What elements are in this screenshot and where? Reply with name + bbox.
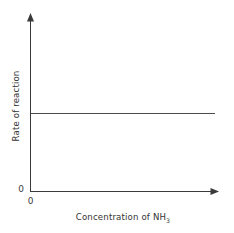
y-axis-title: Rate of reaction bbox=[11, 71, 21, 142]
x-axis-title: Concentration of NH3 bbox=[76, 212, 170, 224]
x-axis-title-text: Concentration of NH bbox=[76, 212, 166, 222]
chart-canvas: 0 0 Rate of reaction Concentration of NH… bbox=[0, 0, 234, 233]
chart-background bbox=[0, 0, 234, 233]
y-axis-origin-label: 0 bbox=[18, 184, 24, 194]
chart-figure: 0 0 Rate of reaction Concentration of NH… bbox=[0, 0, 234, 233]
x-axis-origin-label: 0 bbox=[28, 196, 34, 206]
x-axis-title-subscript: 3 bbox=[166, 217, 170, 224]
